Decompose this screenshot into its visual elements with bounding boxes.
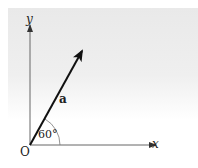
vector-label: a xyxy=(59,93,67,105)
vector-diagram: y x O a 60° xyxy=(0,0,198,168)
x-axis-label: x xyxy=(152,138,159,150)
origin-label: O xyxy=(20,146,30,158)
y-axis-label: y xyxy=(26,13,33,25)
angle-label: 60° xyxy=(38,129,58,140)
